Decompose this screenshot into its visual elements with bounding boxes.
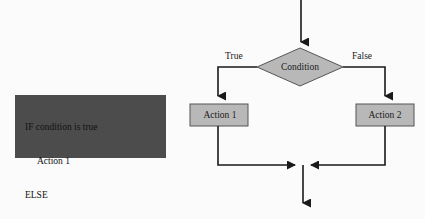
pseudocode-line: IF condition is true [25, 122, 98, 133]
action-1-merge-connector [218, 126, 295, 165]
pseudocode-lines: IF condition is true Action 1 ELSE Actio… [25, 100, 98, 219]
branch-label-false: False [352, 51, 372, 61]
decision-label: Condition [277, 62, 323, 72]
process-label-action-1: Action 1 [192, 110, 248, 120]
pseudocode-line: Action 1 [25, 156, 98, 167]
pseudocode-line: ELSE [25, 190, 98, 201]
branch-label-true: True [225, 51, 243, 61]
pseudocode-block: IF condition is true Action 1 ELSE Actio… [15, 95, 166, 158]
false-branch-connector [343, 67, 385, 96]
action-2-merge-connector [311, 126, 385, 165]
true-branch-connector [218, 67, 257, 96]
process-label-action-2: Action 2 [357, 110, 413, 120]
